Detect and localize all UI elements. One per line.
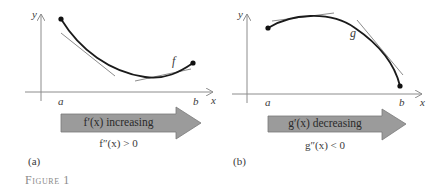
x-axis-label-b: x [420, 97, 425, 108]
endpoint-b-end [397, 83, 402, 88]
endpoint-label-b-left: a [265, 97, 271, 108]
tangent-line-a2 [135, 69, 191, 81]
endpoint-label-a-right: b [193, 96, 199, 107]
y-axis-label-b: y [238, 9, 243, 20]
panel-tag-b: (b) [233, 156, 246, 167]
y-axis-label-a: y [32, 9, 37, 20]
figure-graphics [0, 0, 442, 187]
x-axis-label-a: x [211, 95, 216, 106]
second-derivative-condition-b: g″(x) < 0 [268, 140, 382, 151]
endpoint-a-end [190, 60, 195, 65]
curve-g [268, 16, 400, 86]
figure-caption: Figure 1 [25, 174, 70, 186]
second-derivative-condition-a: f″(x) > 0 [61, 138, 176, 149]
tangent-line-b2 [357, 20, 403, 75]
arrow-label-a: f′(x) increasing [61, 117, 176, 129]
endpoint-label-a-left: a [58, 96, 64, 107]
arrow-label-b: g′(x) decreasing [268, 118, 382, 130]
function-label-f: f [172, 55, 175, 67]
endpoint-b-start [265, 25, 270, 30]
endpoint-a-start [58, 16, 63, 21]
endpoint-label-b-right: b [399, 97, 405, 108]
function-label-g: g [350, 27, 356, 39]
figure-1: y x f a b f′(x) increasing f″(x) > 0 (a)… [0, 0, 442, 187]
panel-tag-a: (a) [28, 156, 40, 167]
tangent-line-a1 [61, 33, 115, 76]
